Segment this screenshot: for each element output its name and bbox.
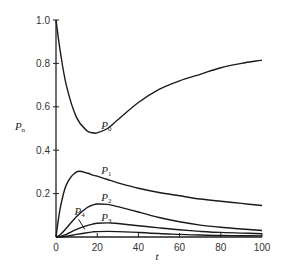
label-p1: P1 — [100, 164, 112, 178]
y-tick-label: 1.0 — [36, 15, 50, 26]
label-p2: P2 — [100, 191, 112, 205]
y-tick-label: 0.2 — [36, 188, 50, 199]
curve-p1 — [56, 171, 262, 237]
curve-p3 — [56, 223, 262, 237]
x-tick-label: 0 — [53, 242, 59, 253]
x-tick-label: 20 — [92, 242, 104, 253]
y-tick-label: 0.6 — [36, 101, 50, 112]
x-tick-label: 80 — [215, 242, 227, 253]
label-p0: P0 — [100, 119, 112, 133]
y-tick-label: 0.8 — [36, 58, 50, 69]
x-tick-label: 60 — [174, 242, 186, 253]
curves — [56, 20, 262, 237]
curve-p0 — [56, 20, 262, 133]
x-axis-label: t — [155, 250, 159, 262]
label-p4: P4 — [74, 205, 86, 219]
y-tick-label: 0.4 — [36, 145, 50, 156]
chart: 0.20.40.60.81.0020406080100 P0P1P2P3P4 t… — [0, 0, 285, 274]
axes: 0.20.40.60.81.0020406080100 — [36, 15, 271, 254]
curve-labels: P0P1P2P3P4 — [74, 119, 113, 230]
label-p3: P3 — [100, 211, 112, 225]
y-axis-label: Pn — [14, 120, 26, 134]
x-tick-label: 100 — [254, 242, 271, 253]
x-tick-label: 40 — [133, 242, 145, 253]
